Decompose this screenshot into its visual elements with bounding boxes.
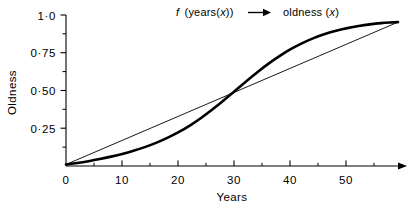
x-tick-label-30: 30 (227, 174, 241, 186)
x-axis-title: Years (217, 191, 248, 203)
chart-figure: f (years(x)) oldness (x) 1·0 (0, 0, 412, 206)
x-tick-label-50: 50 (339, 174, 353, 186)
y-axis-title: Oldness (6, 70, 18, 115)
x-tick-label-40: 40 (283, 174, 297, 186)
y-tick-label-025: 0·25 (31, 123, 56, 135)
y-tick-label-075: 0·75 (31, 47, 56, 59)
y-tick-label-1: 1·0 (38, 10, 56, 22)
chart-canvas: f (years(x)) oldness (x) 1·0 (0, 0, 412, 206)
arrow-right-icon (248, 9, 271, 16)
y-tick-label-050: 0·50 (31, 85, 56, 97)
x-axis-arrow-icon (398, 163, 407, 170)
legend-function-expression: f (years(x)) (176, 6, 234, 18)
x-axis: 0 10 20 30 40 50 Years (63, 161, 408, 204)
chart-legend: f (years(x)) oldness (x) (176, 6, 339, 18)
x-tick-label-10: 10 (115, 174, 129, 186)
y-axis: 1·0 0·75 0·50 0·25 Oldness (6, 10, 66, 167)
legend-result-expression: oldness (x) (283, 6, 339, 18)
x-tick-label-20: 20 (171, 174, 185, 186)
x-tick-label-0: 0 (63, 174, 70, 186)
